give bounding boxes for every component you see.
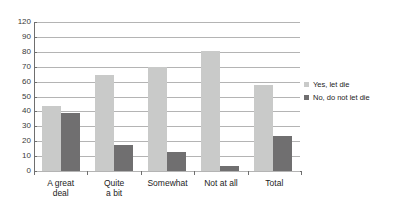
- y-axis-tick-label: 10: [1, 152, 31, 160]
- y-axis-tick-label: 20: [1, 137, 31, 145]
- legend-label: Yes, let die: [313, 80, 349, 89]
- y-axis-tick-mark: [34, 22, 37, 23]
- bar: [273, 136, 292, 171]
- y-axis-tick-label: 30: [1, 122, 31, 130]
- y-axis-tick-label: 60: [1, 78, 31, 86]
- legend: Yes, let dieNo, do not let die: [304, 80, 394, 106]
- x-axis-category-labels: A great dealQuite a bitSomewhatNot at al…: [34, 178, 301, 198]
- x-axis-category-label: Quite a bit: [87, 178, 140, 198]
- x-axis-tick-mark: [194, 171, 195, 175]
- x-axis-category-label: A great deal: [34, 178, 87, 198]
- y-axis-tick-label: 90: [1, 33, 31, 41]
- y-axis-tick-mark: [34, 37, 37, 38]
- plot-area: [34, 22, 300, 171]
- y-axis-tick-mark: [34, 126, 37, 127]
- y-axis-tick-mark: [34, 111, 37, 112]
- y-axis-tick-mark: [34, 67, 37, 68]
- bar-group: [140, 22, 193, 171]
- bar: [42, 106, 61, 171]
- y-axis-tick-label: 80: [1, 48, 31, 56]
- legend-item: No, do not let die: [304, 93, 394, 102]
- bar: [201, 51, 220, 171]
- y-axis-tick-label: 120: [1, 18, 31, 26]
- y-axis-tick-label: 70: [1, 63, 31, 71]
- bar-group: [194, 22, 247, 171]
- legend-swatch: [304, 82, 309, 87]
- bar: [61, 113, 80, 171]
- x-axis-tick-mark: [248, 171, 249, 175]
- y-axis-tick-mark: [34, 97, 37, 98]
- x-axis-tick-mark: [301, 171, 302, 175]
- bar: [254, 85, 273, 171]
- legend-item: Yes, let die: [304, 80, 394, 89]
- bar: [167, 152, 186, 171]
- y-axis-tick-mark: [34, 52, 37, 53]
- bar-groups: [34, 22, 300, 171]
- bar-chart: 1209080706050403020100 A great dealQuite…: [0, 0, 395, 209]
- y-axis-tick-mark: [34, 156, 37, 157]
- y-axis-tick-mark: [34, 171, 37, 172]
- x-axis-category-label: Not at all: [194, 178, 247, 198]
- y-axis-tick-label: 40: [1, 107, 31, 115]
- x-axis-tick-mark: [87, 171, 88, 175]
- x-axis-ticks: [34, 171, 301, 176]
- x-axis-category-label: Somewhat: [141, 178, 194, 198]
- y-axis-tick-label: 0: [1, 167, 31, 175]
- y-axis-tick-mark: [34, 141, 37, 142]
- bar: [148, 67, 167, 171]
- x-axis-tick-mark: [141, 171, 142, 175]
- x-axis-category-label: Total: [248, 178, 301, 198]
- y-axis-tick-label: 50: [1, 93, 31, 101]
- legend-label: No, do not let die: [313, 93, 370, 102]
- bar-group: [247, 22, 300, 171]
- legend-swatch: [304, 95, 309, 100]
- bar: [114, 145, 133, 171]
- y-axis-tick-labels: 1209080706050403020100: [0, 22, 31, 171]
- bar: [95, 75, 114, 171]
- bar-group: [87, 22, 140, 171]
- y-axis-tick-mark: [34, 82, 37, 83]
- bar-group: [34, 22, 87, 171]
